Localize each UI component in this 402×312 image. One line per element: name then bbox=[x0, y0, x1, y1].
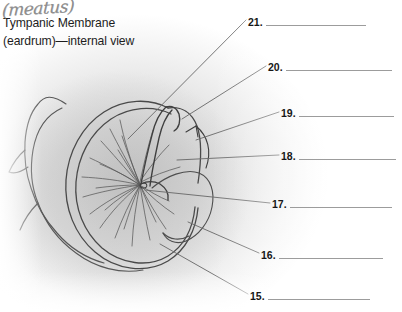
answer-blank-rule[interactable] bbox=[266, 25, 366, 26]
answer-blank-number: 17. bbox=[272, 199, 290, 210]
answer-blank-number: 16. bbox=[261, 250, 279, 261]
answer-blank-number: 15. bbox=[250, 291, 268, 302]
answer-blank-rule[interactable] bbox=[279, 258, 383, 259]
radiating-fibers bbox=[82, 120, 180, 246]
answer-blank-number: 20. bbox=[268, 62, 286, 73]
answer-blank-15[interactable]: 15. bbox=[250, 291, 370, 302]
answer-blank-rule[interactable] bbox=[290, 207, 392, 208]
answer-blank-16[interactable]: 16. bbox=[261, 250, 383, 261]
direction-arrow bbox=[186, 126, 209, 168]
answer-blank-rule[interactable] bbox=[299, 116, 394, 117]
answer-blank-rule[interactable] bbox=[286, 70, 392, 71]
leader-lines bbox=[128, 20, 279, 294]
answer-blank-number: 18. bbox=[281, 151, 299, 162]
leader-line-17 bbox=[145, 190, 270, 203]
answer-blank-21[interactable]: 21. bbox=[248, 17, 366, 28]
answer-blank-rule[interactable] bbox=[268, 299, 370, 300]
leader-line-19 bbox=[196, 112, 279, 140]
leader-line-15 bbox=[160, 244, 248, 294]
answer-blank-rule[interactable] bbox=[299, 159, 396, 160]
answer-blank-20[interactable]: 20. bbox=[268, 62, 392, 73]
leader-line-18 bbox=[177, 155, 279, 160]
worksheet-page: Tympanic Membrane (eardrum)—internal vie… bbox=[0, 0, 402, 312]
answer-blank-number: 21. bbox=[248, 17, 266, 28]
leader-line-16 bbox=[188, 222, 259, 253]
caption-line-2: (eardrum)—internal view bbox=[3, 33, 218, 51]
leader-line-20 bbox=[182, 66, 266, 119]
inner-loop-structure bbox=[152, 171, 213, 242]
figure-caption: Tympanic Membrane (eardrum)—internal vie… bbox=[3, 15, 218, 50]
answer-blank-19[interactable]: 19. bbox=[281, 108, 394, 119]
answer-blank-17[interactable]: 17. bbox=[272, 199, 392, 210]
answer-blank-number: 19. bbox=[281, 108, 299, 119]
answer-blank-18[interactable]: 18. bbox=[281, 151, 396, 162]
